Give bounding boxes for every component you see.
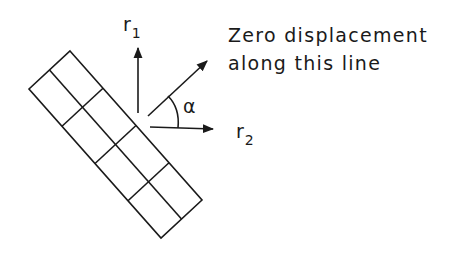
r2-subscript: 2 (245, 132, 254, 148)
angle-arc (168, 96, 178, 128)
caption-line-1: Zero displacement (228, 26, 428, 45)
r2-label: r2 (236, 122, 254, 141)
r1-label: r1 (123, 15, 141, 34)
r1-symbol: r (123, 13, 131, 35)
r2-arrow (150, 127, 213, 129)
block-grid (29, 51, 202, 238)
alpha-label: α (183, 97, 196, 116)
r1-subscript: 1 (132, 25, 141, 41)
caption-line-2: along this line (228, 54, 381, 73)
arrows (138, 48, 213, 129)
zero-displacement-arrow (148, 61, 207, 116)
r2-symbol: r (236, 120, 244, 142)
